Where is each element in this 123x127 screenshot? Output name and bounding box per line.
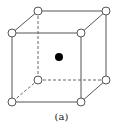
corner-atom [77, 29, 85, 37]
corner-atom [8, 98, 16, 106]
corner-atom [77, 98, 85, 106]
corner-atom [34, 7, 42, 15]
center-atom [55, 53, 63, 61]
corner-atom [102, 76, 110, 84]
figure-caption: (a) [0, 111, 123, 122]
corner-atom [102, 7, 110, 15]
corner-atom [8, 29, 16, 37]
bcc-cube-diagram [0, 0, 123, 127]
corner-atom [34, 76, 42, 84]
